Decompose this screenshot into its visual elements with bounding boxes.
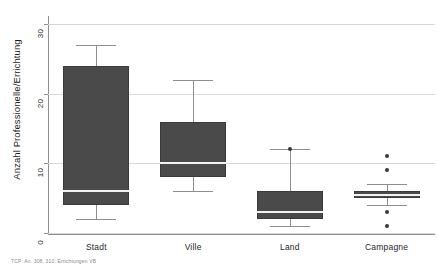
whisker-upper-stem bbox=[387, 184, 388, 191]
figure-footnote: TCP: An. 308, 310: Errichtungen VB bbox=[11, 258, 96, 264]
y-tick-label-20: 20 bbox=[36, 92, 45, 114]
x-tick-label-ville: Ville bbox=[143, 242, 243, 252]
whisker-lower-stem bbox=[387, 198, 388, 205]
box-group-campagne[interactable] bbox=[48, 16, 435, 234]
x-tick-label-land: Land bbox=[240, 242, 340, 252]
y-tick-label-10: 10 bbox=[36, 162, 45, 184]
outlier-point[interactable] bbox=[385, 224, 389, 228]
whisker-upper-cap bbox=[367, 184, 407, 185]
outlier-point[interactable] bbox=[385, 154, 389, 158]
outlier-point[interactable] bbox=[385, 168, 389, 172]
y-tick-label-0: 0 bbox=[36, 232, 45, 254]
plot-area bbox=[48, 16, 435, 234]
boxplot-figure: Anzahl Professionelle/Errichtung 0102030… bbox=[0, 0, 438, 278]
outlier-point[interactable] bbox=[385, 210, 389, 214]
y-tick-label-30: 30 bbox=[36, 23, 45, 45]
y-axis-title: Anzahl Professionelle/Errichtung bbox=[11, 0, 22, 220]
x-axis-line bbox=[48, 234, 435, 235]
median-line bbox=[354, 194, 420, 196]
whisker-lower-cap bbox=[367, 205, 407, 206]
x-tick-label-campagne: Campagne bbox=[337, 242, 437, 252]
x-tick-label-stadt: Stadt bbox=[46, 242, 146, 252]
